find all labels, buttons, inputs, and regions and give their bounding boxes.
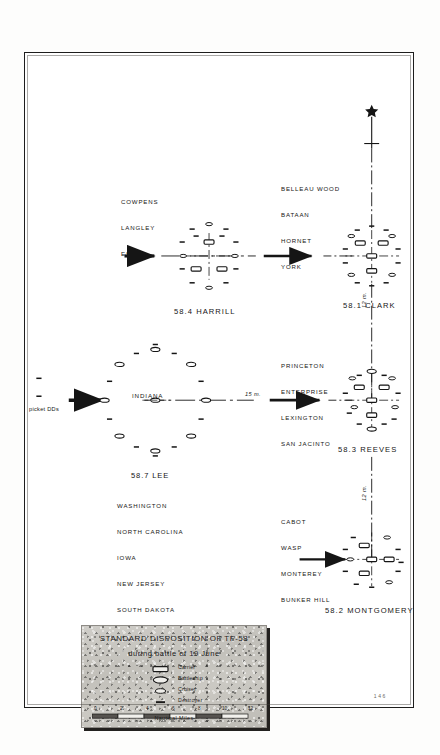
ship-name: BATAAN <box>281 211 340 220</box>
ship-name: BUNKER HILL <box>281 596 330 605</box>
disposition-diagram <box>25 53 413 706</box>
ship-name: HORNET <box>281 237 340 246</box>
page-number: 146 <box>374 693 387 699</box>
ship-name: ENTERPRISE <box>281 388 331 397</box>
distance-clark-reeves-label: 12 m. <box>361 292 369 308</box>
tg-58-7-lee-ship-list: WASHINGTON NORTH CAROLINA IOWA NEW JERSE… <box>117 485 183 658</box>
picket-dds-symbols <box>36 378 41 397</box>
plate-border: COWPENS LANGLEY ESSEX 58.4 HARRILL BELLE… <box>24 52 414 708</box>
legend-key-cruiser: Cruiser <box>178 686 196 692</box>
plate-page: COWPENS LANGLEY ESSEX 58.4 HARRILL BELLE… <box>0 0 440 755</box>
picket-dds-label: picket DDs <box>29 406 59 414</box>
ship-name: COWPENS <box>121 198 158 207</box>
scale-tick-6: 6 <box>172 706 175 711</box>
carrier-symbol <box>150 664 172 674</box>
ship-name: ALABAMA <box>117 632 183 641</box>
scale-tick-0: 0 <box>94 706 97 711</box>
ship-name: YORK <box>281 263 340 272</box>
legend-key-destroyer: Destroyer <box>178 697 202 703</box>
tg-58-7-lee-formation <box>100 344 211 457</box>
scale-tick-2: 2 <box>120 706 123 711</box>
tg-58-2-montgomery-ship-list: CABOT WASP MONTEREY BUNKER HILL <box>281 501 330 622</box>
distance-15m-label: 15 m. <box>245 391 261 399</box>
tg-58-1-clark-designation: 58.1 CLARK <box>343 301 396 312</box>
ship-name: BELLEAU WOOD <box>281 185 340 194</box>
ship-name: IOWA <box>117 554 183 563</box>
ship-name: CABOT <box>281 518 330 527</box>
cruiser-symbol <box>150 686 172 696</box>
ship-name: ESSEX <box>121 250 158 259</box>
scale-tick-12: 12 <box>248 706 253 711</box>
ship-name: PRINCETON <box>281 362 331 371</box>
tg-58-3-reeves-designation: 58.3 REEVES <box>338 445 397 456</box>
ship-name: WASHINGTON <box>117 502 183 511</box>
tg-58-1-clark-formation <box>343 225 401 286</box>
tg-58-4-harrill-ship-list: COWPENS LANGLEY ESSEX <box>121 181 158 276</box>
tg-58-4-harrill-designation: 58.4 HARRILL <box>174 307 236 318</box>
indiana-label: INDIANA <box>132 392 163 401</box>
tg-58-3-reeves-formation <box>343 369 401 431</box>
flagship-marker <box>364 105 379 149</box>
ship-name: LANGLEY <box>121 224 158 233</box>
ship-name: NORTH CAROLINA <box>117 528 183 537</box>
ship-name: NEW JERSEY <box>117 580 183 589</box>
ship-name: MONTEREY <box>281 570 330 579</box>
tg-58-2-montgomery-formation <box>343 533 404 588</box>
legend-title-line1: STANDARD DISPOSITION OF TF-58 <box>82 634 266 643</box>
tg-58-1-clark-ship-list: BELLEAU WOOD BATAAN HORNET YORK <box>281 168 340 289</box>
legend-title-line2: during battle of 19 June <box>82 649 266 658</box>
scale-tick-8: 8 <box>198 706 201 711</box>
distance-reeves-montgomery-label: 12 m. <box>361 485 369 501</box>
scale-tick-4: 4 <box>146 706 149 711</box>
ship-name: WASP <box>281 544 330 553</box>
legend-box: STANDARD DISPOSITION OF TF-58 during bat… <box>81 625 267 728</box>
ship-name: SOUTH DAKOTA <box>117 606 183 615</box>
tg-58-2-montgomery-designation: 58.2 MONTGOMERY <box>325 606 414 617</box>
legend-key-battleship: Battleship <box>178 675 203 681</box>
battleship-symbol <box>150 675 172 685</box>
tg-58-7-lee-designation: 58.7 LEE <box>131 471 169 482</box>
tg-58-3-reeves-ship-list: PRINCETON ENTERPRISE LEXINGTON SAN JACIN… <box>281 345 331 466</box>
ship-name: SAN JACINTO <box>281 440 331 449</box>
legend-key-carrier: Carrier <box>178 664 195 670</box>
scale-tick-10: 10 <box>222 706 227 711</box>
scale-unit-label: Nautical Miles <box>82 715 266 721</box>
destroyer-symbol <box>150 697 172 707</box>
ship-name: LEXINGTON <box>281 414 331 423</box>
tg-58-4-harrill-formation <box>180 223 239 290</box>
